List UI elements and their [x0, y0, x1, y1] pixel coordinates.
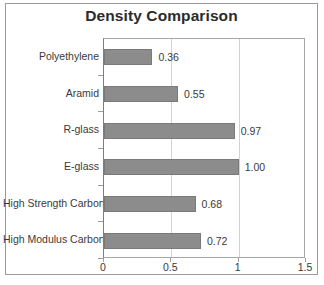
bar-row: 0.68 [104, 186, 304, 223]
bar-row: 0.55 [104, 76, 304, 113]
bar [104, 233, 201, 249]
category-axis-tick [98, 111, 103, 112]
bar [104, 123, 235, 139]
value-axis-labels: 00.511.5 [103, 261, 305, 277]
bar-row: 0.97 [104, 112, 304, 149]
category-label: E-glass [3, 160, 99, 172]
category-label: R-glass [3, 123, 99, 135]
bar-value-label: 0.36 [158, 49, 178, 65]
bar [104, 159, 239, 175]
category-label: Aramid [3, 87, 99, 99]
category-axis-labels: PolyethyleneAramidR-glassE-glassHigh Str… [0, 38, 99, 258]
value-axis-tick [238, 258, 239, 262]
value-axis-tick [103, 258, 104, 262]
value-axis-tick-label: 0.5 [163, 261, 178, 273]
category-label: Polyethylene [3, 50, 99, 62]
bar [104, 196, 196, 212]
bar-value-label: 0.97 [241, 123, 261, 139]
bar [104, 86, 178, 102]
value-axis-tick [305, 258, 306, 262]
bar-value-label: 1.00 [245, 159, 265, 175]
value-axis-tick [170, 258, 171, 262]
chart-title: Density Comparison [5, 7, 318, 25]
bar-row: 0.36 [104, 39, 304, 76]
category-axis-tick [98, 185, 103, 186]
bar-value-label: 0.72 [207, 233, 227, 249]
plot-area: 0.360.550.971.000.680.72 [103, 38, 305, 258]
value-axis-tick-label: 1.5 [298, 261, 313, 273]
bar-row: 0.72 [104, 222, 304, 259]
bar [104, 49, 152, 65]
category-axis-tick [98, 75, 103, 76]
chart-container: Density Comparison PolyethyleneAramidR-g… [0, 0, 324, 285]
bar-row: 1.00 [104, 149, 304, 186]
category-label: High Strength Carbon [3, 197, 99, 209]
bar-value-label: 0.55 [184, 86, 204, 102]
bar-value-label: 0.68 [202, 196, 222, 212]
category-axis-tick [98, 221, 103, 222]
category-label: High Modulus Carbon [3, 233, 99, 245]
value-axis-tick-label: 1 [235, 261, 241, 273]
category-axis-tick [98, 148, 103, 149]
value-axis-tick-label: 0 [100, 261, 106, 273]
